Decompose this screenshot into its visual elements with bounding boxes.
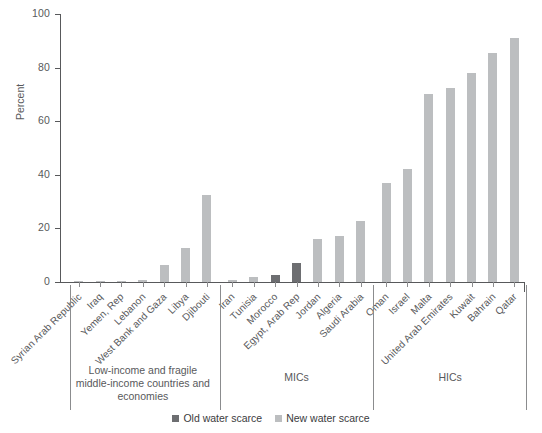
bar-series-container	[60, 14, 525, 282]
bar-israel	[403, 169, 412, 282]
x-label-oman: Oman	[363, 291, 390, 318]
x-tick-mark-15	[407, 282, 408, 287]
group-label-0: Low-income and fragile middle-income cou…	[73, 364, 213, 403]
group-edge-2	[526, 285, 527, 410]
group-divider-2	[373, 285, 374, 410]
x-label-israel: Israel	[387, 291, 413, 317]
bar-jordan	[313, 239, 322, 282]
x-tick-mark-19	[493, 282, 494, 287]
group-label-2: HICs	[405, 371, 495, 384]
x-tick-mark-20	[514, 282, 515, 287]
y-tick-label-60: 60	[20, 114, 50, 126]
x-tick-mark-1	[100, 282, 101, 287]
x-tick-mark-16	[429, 282, 430, 287]
x-tick-mark-0	[79, 282, 80, 287]
bar-morocco	[271, 275, 280, 283]
x-label-qatar: Qatar	[493, 291, 519, 317]
water-scarcity-bar-chart: Percent 020406080100 Syrian Arab Republi…	[0, 0, 542, 433]
bar-oman	[382, 183, 391, 282]
bar-united-arab-emirates	[446, 88, 455, 282]
bar-egypt-arab-rep	[292, 263, 301, 282]
bar-bahrain	[488, 53, 497, 282]
x-tick-mark-13	[361, 282, 362, 287]
x-tick-mark-7	[232, 282, 233, 287]
x-tick-mark-11	[318, 282, 319, 287]
chart-legend: Old water scarce New water scarce	[0, 412, 542, 424]
bar-qatar	[510, 38, 519, 282]
bar-west-bank-and-gaza	[160, 265, 169, 282]
x-tick-mark-2	[121, 282, 122, 287]
legend-swatch-new-water-scarce	[275, 415, 282, 422]
bar-kuwait	[467, 73, 476, 282]
y-tick-label-100: 100	[20, 7, 50, 19]
y-tick-label-80: 80	[20, 61, 50, 73]
group-label-1: MICs	[252, 371, 342, 384]
y-tick-label-0: 0	[20, 275, 50, 287]
y-tick-label-20: 20	[20, 221, 50, 233]
bar-libya	[181, 248, 190, 282]
x-tick-mark-17	[450, 282, 451, 287]
x-tick-mark-5	[186, 282, 187, 287]
legend-item-old-water-scarce: Old water scarce	[172, 412, 262, 424]
x-tick-mark-3	[143, 282, 144, 287]
group-edge-0	[70, 285, 71, 410]
x-tick-mark-10	[297, 282, 298, 287]
bar-algeria	[335, 236, 344, 282]
x-tick-mark-14	[386, 282, 387, 287]
legend-swatch-old-water-scarce	[172, 415, 179, 422]
x-tick-mark-8	[254, 282, 255, 287]
group-divider-1	[220, 285, 221, 410]
x-tick-mark-12	[339, 282, 340, 287]
legend-item-new-water-scarce: New water scarce	[275, 412, 369, 424]
bar-djibouti	[202, 195, 211, 282]
bar-malta	[424, 94, 433, 282]
legend-label-new-water-scarce: New water scarce	[286, 412, 369, 424]
x-tick-mark-6	[207, 282, 208, 287]
x-tick-mark-18	[472, 282, 473, 287]
x-axis-right-cap	[524, 282, 525, 292]
x-axis-line	[60, 282, 525, 283]
x-tick-mark-9	[275, 282, 276, 287]
legend-label-old-water-scarce: Old water scarce	[183, 412, 262, 424]
x-label-syrian-arab-republic: Syrian Arab Republic	[8, 291, 83, 366]
x-tick-mark-4	[164, 282, 165, 287]
y-tick-label-40: 40	[20, 168, 50, 180]
bar-saudi-arabia	[356, 221, 365, 282]
